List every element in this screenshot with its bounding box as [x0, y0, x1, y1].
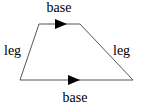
bottom-base-parallel-arrow-icon	[68, 75, 80, 85]
right-leg-label: leg	[113, 43, 130, 58]
trapezoid-diagram: base leg leg base	[0, 0, 142, 107]
bottom-base-label: base	[63, 90, 88, 105]
top-base-label: base	[47, 0, 72, 15]
left-leg-label: leg	[4, 43, 21, 58]
top-base-parallel-arrow-icon	[55, 19, 67, 29]
